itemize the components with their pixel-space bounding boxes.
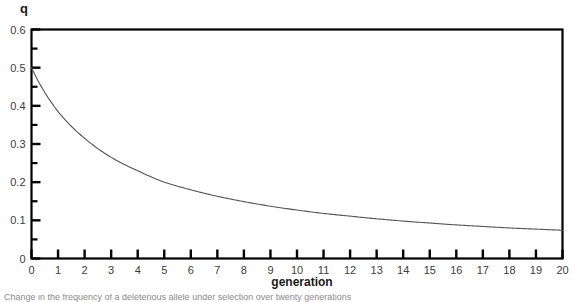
x-axis-tick-label: 0 (28, 264, 34, 276)
x-axis-tick-label: 7 (214, 264, 220, 276)
y-axis-tick-label: 0.5 (10, 62, 25, 74)
x-axis-tick-label: 2 (82, 264, 88, 276)
x-axis-tick-label: 15 (424, 264, 436, 276)
x-axis-tick-label: 3 (108, 264, 114, 276)
figure-caption-text: Change in the frequency of a deleterious… (4, 294, 576, 302)
data-series-line (32, 68, 563, 231)
plot-area: 00.10.20.30.40.50.6012345678910111213141… (0, 0, 580, 302)
plot-frame (32, 30, 563, 259)
figure: q 00.10.20.30.40.50.60123456789101112131… (0, 0, 580, 302)
x-axis-tick-label: 5 (161, 264, 167, 276)
x-axis-tick-label: 17 (477, 264, 489, 276)
x-axis-tick-label: 19 (530, 264, 542, 276)
x-axis-tick-label: 18 (503, 264, 515, 276)
chart-svg: 00.10.20.30.40.50.6012345678910111213141… (0, 0, 580, 302)
y-axis-tick-label: 0.3 (10, 138, 25, 150)
x-axis-title: generation (0, 275, 580, 289)
x-axis-tick-label: 6 (188, 264, 194, 276)
x-axis-tick-label: 14 (397, 264, 409, 276)
x-axis-tick-label: 8 (241, 264, 247, 276)
y-axis-tick-label: 0.1 (10, 214, 25, 226)
x-axis-tick-label: 16 (450, 264, 462, 276)
x-axis-tick-label: 20 (556, 264, 568, 276)
x-axis-tick-label: 10 (291, 264, 303, 276)
x-axis-tick-label: 9 (267, 264, 273, 276)
x-axis-tick-label: 11 (318, 264, 329, 276)
x-axis-tick-label: 12 (344, 264, 356, 276)
figure-caption-clipped: Change in the frequency of a deleterious… (0, 294, 580, 302)
x-axis-tick-label: 13 (371, 264, 383, 276)
x-axis-title-label: generation (271, 275, 332, 289)
x-axis-tick-label: 4 (135, 264, 141, 276)
y-axis-tick-label: 0.4 (10, 100, 25, 112)
y-axis-tick-label: 0 (19, 253, 25, 265)
x-axis-tick-label: 1 (55, 264, 61, 276)
y-axis-tick-label: 0.2 (10, 176, 25, 188)
y-axis-tick-label: 0.6 (10, 24, 25, 36)
